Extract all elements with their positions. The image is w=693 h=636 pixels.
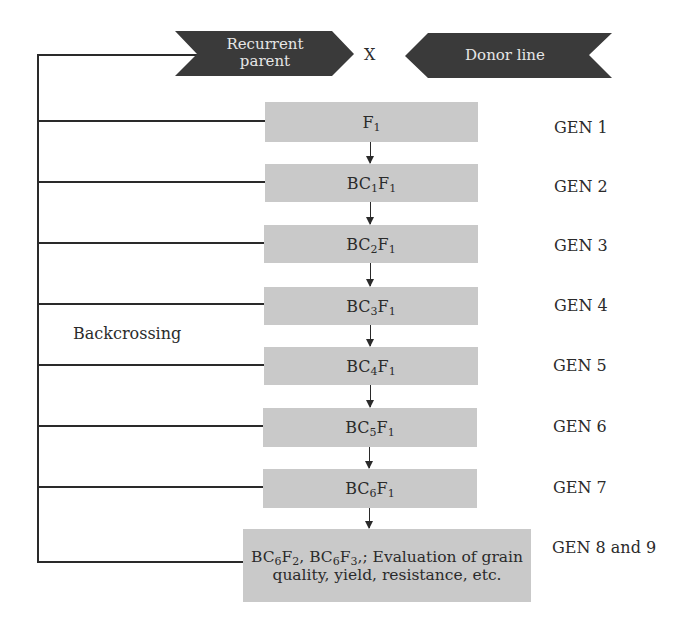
connector-gen-5 [37, 364, 265, 366]
box-bc4f1: BC4F1 [264, 347, 478, 385]
arrow-down-icon [370, 385, 371, 407]
connector-gen-1 [37, 120, 265, 122]
backcrossing-label: Backcrossing [73, 324, 181, 343]
gen-label-5: GEN 5 [553, 356, 607, 375]
arrow-down-icon [370, 202, 371, 224]
backcrossing-diagram: Recurrent parent X Donor line F1 BC1F1 B… [0, 0, 693, 636]
box-bc3f1-text: BC3F1 [346, 297, 395, 316]
box-bc5f1: BC5F1 [263, 408, 477, 447]
box-bc2f1: BC2F1 [264, 225, 478, 263]
gen-label-3: GEN 3 [554, 236, 608, 255]
box-f1-text: F1 [362, 113, 380, 132]
connector-gen-3 [37, 242, 265, 244]
arrow-down-icon [369, 447, 370, 468]
connector-gen-7 [37, 486, 265, 488]
box-bc3f1: BC3F1 [264, 287, 478, 325]
box-bc6f1-text: BC6F1 [345, 479, 394, 498]
gen-label-4: GEN 4 [554, 296, 608, 315]
box-final-text: BC6F2, BC6F3,; Evaluation of grain quali… [249, 548, 525, 584]
donor-line-label: Donor line [430, 47, 580, 64]
arrow-down-icon [370, 142, 371, 163]
box-bc2f1-text: BC2F1 [346, 235, 395, 254]
gen-label-6: GEN 6 [553, 417, 607, 436]
box-bc5f1-text: BC5F1 [345, 418, 394, 437]
box-f1: F1 [265, 102, 478, 142]
box-bc1f1-text: BC1F1 [347, 174, 396, 193]
connector-gen-8-9 [37, 561, 243, 563]
cross-symbol: X [364, 45, 375, 64]
recurrent-parent-label: Recurrent parent [205, 36, 325, 70]
gen-label-1: GEN 1 [554, 118, 608, 137]
connector-gen-6 [37, 425, 265, 427]
gen-label-2: GEN 2 [554, 177, 608, 196]
gen-label-8-9: GEN 8 and 9 [552, 538, 656, 557]
gen-label-7: GEN 7 [553, 478, 607, 497]
box-bc6f1: BC6F1 [263, 469, 477, 508]
arrow-down-icon [370, 325, 371, 346]
connector-gen-4 [37, 303, 265, 305]
connector-gen-2 [37, 181, 265, 183]
box-bc1f1: BC1F1 [265, 164, 478, 202]
arrow-down-icon [370, 263, 371, 286]
box-bc6f2-bc6f3-evaluation: BC6F2, BC6F3,; Evaluation of grain quali… [243, 529, 531, 602]
box-bc4f1-text: BC4F1 [346, 357, 395, 376]
arrow-down-icon [369, 508, 370, 528]
